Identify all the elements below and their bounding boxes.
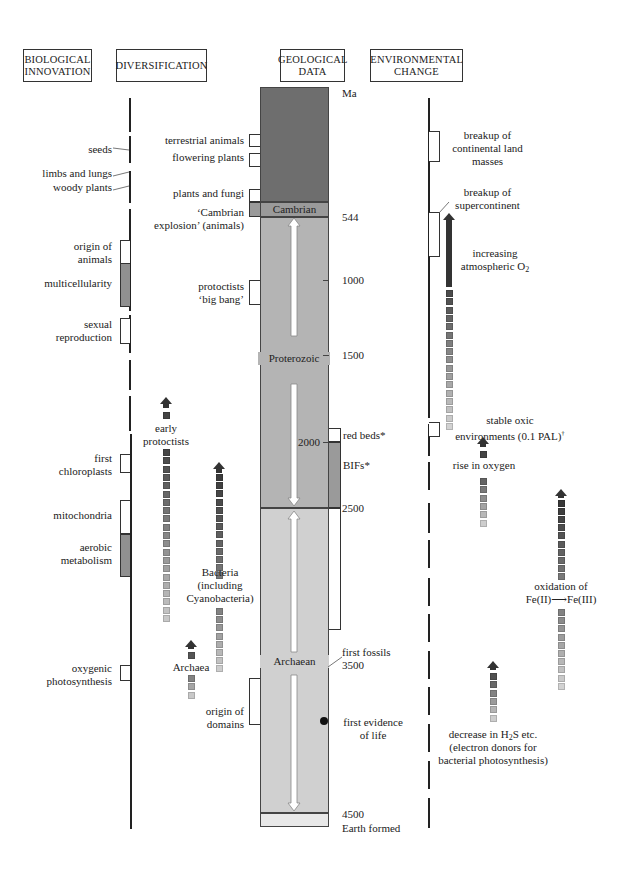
- trail-square: [163, 565, 170, 572]
- trail-square: [188, 692, 195, 699]
- breakup-continental-label-3: masses: [440, 155, 535, 168]
- first-evidence-label-2: of life: [338, 729, 408, 742]
- trail-square: [446, 298, 453, 305]
- origin-animals-label-2: animals: [20, 253, 112, 266]
- early-protoctists-square: [163, 412, 170, 419]
- trail-square: [216, 624, 223, 631]
- trail-square: [558, 675, 565, 682]
- trail-square: [446, 332, 453, 339]
- trail-square: [216, 616, 223, 623]
- fe-oxidation-label-1: oxidation of: [521, 580, 601, 593]
- tick-mark-2000: [323, 442, 329, 443]
- oxygenic-label-2: photosynthesis: [10, 675, 112, 688]
- trail-square: [216, 490, 223, 497]
- earth-formed-label: Earth formed: [342, 822, 400, 835]
- env-timeline-dash-7: [428, 651, 430, 679]
- trail-square: [216, 474, 223, 481]
- bifs-bracket: [329, 442, 341, 508]
- red-beds-label: red beds*: [343, 429, 385, 442]
- trail-square: [558, 617, 565, 624]
- trail-square: [446, 373, 453, 380]
- seeds-leader: [112, 146, 130, 152]
- trail-square: [163, 507, 170, 514]
- sexual-label-1: sexual: [20, 318, 112, 331]
- origin-animals-bracket: [120, 240, 130, 264]
- origin-domains-label-1: origin of: [180, 705, 244, 718]
- stable-oxic-dagger: †: [561, 429, 565, 437]
- oxygenic-label-1: oxygenic: [20, 662, 112, 675]
- trail-square: [216, 608, 223, 615]
- trail-square: [558, 549, 565, 556]
- tick-2500: 2500: [342, 502, 364, 515]
- trail-square: [216, 540, 223, 547]
- tick-3500: 3500: [342, 659, 364, 672]
- trail-square: [490, 681, 497, 688]
- trail-square: [558, 532, 565, 539]
- multicellularity-bracket: [120, 263, 130, 307]
- stable-oxic-text: environments (0.1 PAL): [455, 430, 561, 442]
- trail-square: [446, 381, 453, 388]
- bio-timeline-seg-6: [129, 360, 131, 390]
- seeds-label: seeds: [40, 143, 112, 156]
- first-chloroplasts-bracket: [120, 454, 130, 473]
- trail-square: [480, 520, 487, 527]
- woody-plants-label: woody plants: [10, 181, 112, 194]
- trail-square: [163, 524, 170, 531]
- aerobic-label-2: metabolism: [20, 554, 112, 567]
- trail-square: [216, 548, 223, 555]
- proterozoic-label: Proterozoic: [258, 352, 330, 365]
- trail-square: [163, 532, 170, 539]
- flowering-plants-label: flowering plants: [140, 151, 244, 164]
- trail-square: [446, 398, 453, 405]
- sexual-reproduction-bracket: [120, 318, 130, 344]
- phanerozoic-bar: [260, 87, 329, 202]
- aerobic-label-1: aerobic: [20, 541, 112, 554]
- trail-square: [558, 524, 565, 531]
- protoctists-big-bang-label-1: protoctists: [140, 280, 244, 293]
- trail-square: [216, 531, 223, 538]
- trail-square: [558, 625, 565, 632]
- cambrian-explosion-label-1: ‘Cambrian: [140, 206, 244, 219]
- increasing-o2-subscript: 2: [525, 265, 529, 274]
- trail-square: [446, 340, 453, 347]
- breakup-continental-bracket: [429, 131, 440, 162]
- trail-square: [216, 556, 223, 563]
- trail-square: [558, 500, 565, 507]
- origin-animals-label-1: origin of: [20, 240, 112, 253]
- trail-square: [490, 698, 497, 705]
- trail-square: [188, 683, 195, 690]
- header-diversification: DIVERSIFICATION: [116, 49, 207, 82]
- tick-mark-1000: [323, 280, 329, 281]
- oxygenic-photosynthesis-bracket: [120, 665, 130, 681]
- trail-square: [558, 634, 565, 641]
- env-timeline-dash-6: [428, 614, 430, 642]
- trail-square: [480, 495, 487, 502]
- trail-square: [480, 478, 487, 485]
- trail-square: [490, 715, 497, 722]
- trail-square: [446, 348, 453, 355]
- trail-square: [188, 675, 195, 682]
- breakup-supercontinent-label-1: breakup of: [440, 186, 535, 199]
- header-biological-innovation: BIOLOGICAL INNOVATION: [23, 49, 92, 82]
- early-protoctists-label-2: protoctists: [136, 435, 196, 448]
- early-protoctists-arrow-stem: [163, 403, 169, 408]
- rise-oxygen-label: rise in oxygen: [440, 459, 528, 472]
- trail-square: [163, 449, 170, 456]
- trail-square: [216, 649, 223, 656]
- trail-square: [558, 508, 565, 515]
- trail-square: [163, 615, 170, 622]
- early-protoctists-label-1: early: [136, 422, 196, 435]
- archaean-label: Archaean: [260, 655, 329, 668]
- header-geological-data: GEOLOGICAL DATA: [280, 49, 345, 82]
- trail-square: [163, 482, 170, 489]
- bio-timeline-seg-7: [129, 396, 131, 431]
- increasing-o2-label-2: atmospheric O2: [455, 260, 535, 276]
- bacteria-label-3: Cyanobacteria): [172, 592, 268, 605]
- trail-square: [558, 683, 565, 690]
- trail-square: [163, 574, 170, 581]
- terrestrial-animals-label: terrestrial animals: [140, 134, 244, 147]
- protoctists-big-bang-label-2: ‘big bang’: [140, 293, 244, 306]
- header-diversification-label: DIVERSIFICATION: [115, 60, 207, 72]
- aerobic-metabolism-bracket: [120, 534, 130, 577]
- hadean-bar: [260, 813, 329, 827]
